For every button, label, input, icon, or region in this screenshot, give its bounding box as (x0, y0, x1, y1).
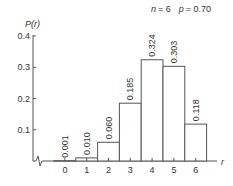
bar-r-5 (163, 66, 185, 161)
x-tick-label: 2 (106, 165, 111, 175)
x-tick-label: 3 (128, 165, 133, 175)
chart-title: n= 6p= 0.70 (151, 4, 211, 14)
y-tick-label: 0.2 (17, 94, 30, 104)
x-tick-label: 5 (171, 165, 176, 175)
axis-break-symbol (33, 156, 42, 166)
x-tick-label: 4 (150, 165, 155, 175)
x-axis-label: r (221, 157, 225, 167)
bar-value-label: 0.185 (125, 78, 135, 101)
bar-r-6 (185, 124, 207, 161)
binomial-distribution-chart: n= 6p= 0.70 P(r) r 0.10.20.30.4 00.00110… (0, 0, 233, 186)
bar-value-label: 0.010 (82, 132, 92, 155)
bar-value-label: 0.118 (191, 99, 201, 121)
bar-value-label: 0.060 (104, 117, 114, 140)
bar-r-3 (119, 103, 141, 161)
x-tick-label: 0 (62, 165, 67, 175)
y-tick-label: 0.3 (17, 62, 30, 72)
y-tick-label: 0.1 (17, 125, 30, 135)
bar-value-label: 0.303 (169, 41, 179, 64)
x-tick-label: 6 (193, 165, 198, 175)
bar-r-4 (141, 60, 163, 161)
bars: 00.00110.01020.06030.18540.32450.30360.1… (54, 34, 207, 175)
y-tick-label: 0.4 (17, 31, 30, 41)
bar-value-label: 0.324 (147, 34, 157, 57)
bar-value-label: 0.001 (60, 135, 70, 158)
y-axis-label: P(r) (25, 19, 40, 29)
x-tick-label: 1 (84, 165, 89, 175)
